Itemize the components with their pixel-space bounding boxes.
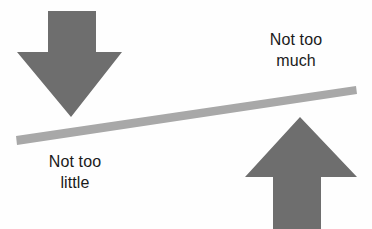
label-not-too-little-line2: little: [27, 172, 123, 193]
label-not-too-little-line1: Not too: [27, 151, 123, 172]
label-not-too-much: Not too much: [248, 29, 344, 71]
balance-diagram: Not too much Not too little: [0, 0, 372, 229]
label-not-too-much-line1: Not too: [248, 29, 344, 50]
label-not-too-much-line2: much: [248, 50, 344, 71]
label-not-too-little: Not too little: [27, 151, 123, 193]
